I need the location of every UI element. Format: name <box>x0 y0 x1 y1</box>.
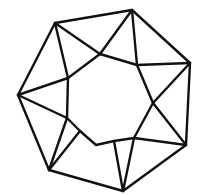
spoke-edge <box>134 138 186 145</box>
spoke-edges <box>18 10 190 191</box>
outer-polygon <box>18 10 190 191</box>
spoke-edge <box>100 10 132 54</box>
spoke-edge <box>137 63 190 65</box>
spoke-edge <box>49 118 67 170</box>
spoke-edge <box>153 63 190 103</box>
geometric-net-diagram <box>0 0 202 195</box>
spoke-edge <box>114 141 123 191</box>
spoke-edge <box>153 103 186 145</box>
spoke-edge <box>49 131 80 170</box>
spoke-edge <box>132 10 137 65</box>
